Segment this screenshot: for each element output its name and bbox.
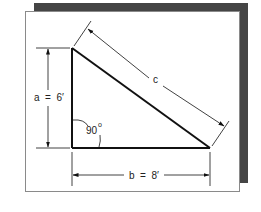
right-angle-marker: 90 o <box>73 120 102 147</box>
side-b-label: b = 8′ <box>129 170 159 181</box>
side-a-label: a = 6′ <box>34 92 64 103</box>
triangle-diagram: a = 6′ b = 8′ c 90 o <box>0 0 261 212</box>
degree-symbol: o <box>98 121 102 128</box>
side-b-dimension: b = 8′ <box>72 152 210 186</box>
angle-label: 90 <box>86 125 98 136</box>
hypotenuse-label: c <box>153 74 158 85</box>
side-a-dimension: a = 6′ <box>34 48 70 148</box>
